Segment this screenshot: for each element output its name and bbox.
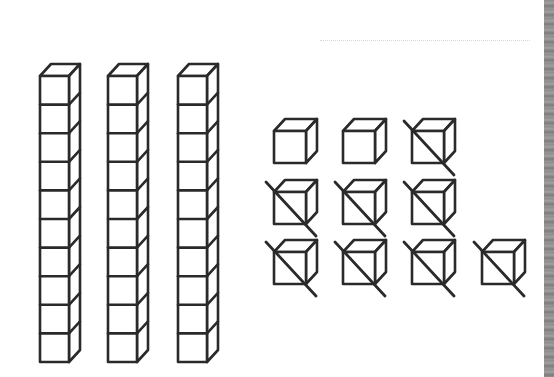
tens-rod bbox=[108, 64, 148, 362]
base-ten-blocks-diagram bbox=[0, 0, 554, 377]
unit-cube bbox=[343, 119, 386, 163]
page-edge-border bbox=[544, 0, 554, 377]
tens-rod bbox=[40, 64, 80, 362]
unit-cube-crossed-out bbox=[266, 180, 317, 236]
unit-cube-crossed-out bbox=[266, 240, 317, 296]
unit-cube-crossed-out bbox=[335, 240, 386, 296]
unit-cube-crossed-out bbox=[404, 180, 455, 236]
tens-rod bbox=[178, 64, 218, 362]
unit-cube-crossed-out bbox=[474, 240, 525, 296]
unit-cube-crossed-out bbox=[404, 119, 455, 175]
unit-cube-crossed-out bbox=[335, 180, 386, 236]
unit-cube-crossed-out bbox=[404, 240, 455, 296]
unit-cubes bbox=[266, 119, 525, 296]
unit-cube bbox=[274, 119, 317, 163]
tens-rods bbox=[40, 64, 218, 362]
